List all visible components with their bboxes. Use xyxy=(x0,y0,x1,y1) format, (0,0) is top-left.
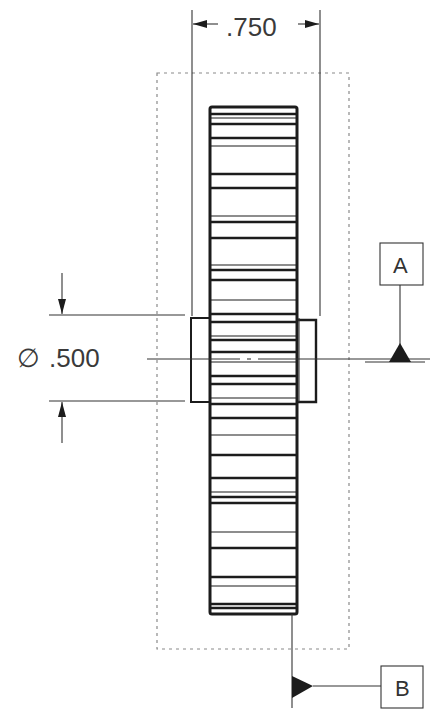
gear-body xyxy=(210,107,297,614)
width-dimension-text: .750 xyxy=(226,12,277,42)
diameter-dimension: ∅ .500 xyxy=(17,273,185,443)
diameter-symbol: ∅ xyxy=(17,343,40,373)
datum-a-label: A xyxy=(393,253,408,278)
hub-left-outline xyxy=(191,318,210,402)
datum-b-triangle-icon xyxy=(292,676,313,698)
gear-outline xyxy=(210,107,297,614)
hub-right-outline xyxy=(297,320,316,402)
arrowhead-right-icon xyxy=(305,20,319,28)
datum-b-label: B xyxy=(395,676,410,701)
arrowhead-down-icon xyxy=(58,299,66,314)
gear-teeth-lines xyxy=(210,114,297,608)
datum-a-triangle-icon xyxy=(389,343,411,362)
arrowhead-up-icon xyxy=(58,402,66,417)
diameter-dimension-text: .500 xyxy=(49,343,100,373)
datum-a: A xyxy=(365,243,425,362)
arrowhead-left-icon xyxy=(193,20,207,28)
datum-b: B xyxy=(292,614,423,708)
gear-drawing-canvas: .750 ∅ .500 A xyxy=(0,0,445,715)
